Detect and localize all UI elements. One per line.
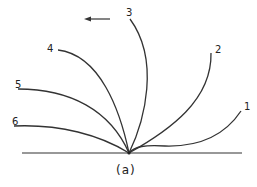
curve-label-5: 5 [15,80,21,90]
figure-caption: (a) [116,163,136,177]
curve-label-6: 6 [12,117,18,127]
curve-label-2: 2 [215,45,221,55]
origin-point [127,151,130,154]
curve-1 [129,111,241,153]
curve-label-3: 3 [126,8,132,18]
left-arrow-icon [84,17,110,22]
curve-6 [14,126,129,153]
curve-3 [129,19,147,153]
curve-2 [129,53,211,153]
curve-group [14,19,241,155]
curve-label-4: 4 [47,44,53,54]
curve-4 [58,50,129,153]
curves-diagram [0,0,257,187]
curve-label-1: 1 [244,102,250,112]
